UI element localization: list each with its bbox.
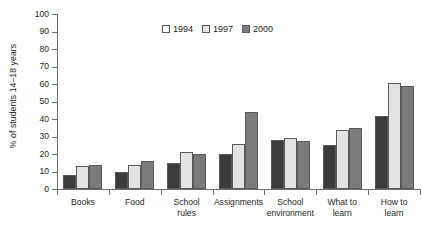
bar xyxy=(297,141,310,189)
y-axis-tick-label: 30 xyxy=(18,132,49,141)
bar-group xyxy=(167,14,206,189)
legend-label: 1994 xyxy=(173,24,193,34)
bar xyxy=(128,165,141,190)
y-axis-tick-label: 40 xyxy=(18,115,49,124)
bar xyxy=(245,112,258,189)
bar xyxy=(375,116,388,190)
y-axis-tick-label: 100 xyxy=(18,10,49,19)
legend-item-1997: 1997 xyxy=(202,24,233,34)
x-axis-tick xyxy=(161,190,162,195)
bar xyxy=(167,163,180,189)
bar xyxy=(63,175,76,189)
bar xyxy=(219,154,232,189)
x-axis-tick xyxy=(420,190,421,195)
legend-label: 2000 xyxy=(253,24,273,34)
y-axis-tick-label: 90 xyxy=(18,27,49,36)
bar-chart-figure: % of students 14–18 years 01020304050607… xyxy=(0,0,422,245)
x-axis-tick xyxy=(57,190,58,195)
x-axis-tick xyxy=(109,190,110,195)
bar-group xyxy=(115,14,154,189)
y-axis-tick-label: 20 xyxy=(18,150,49,159)
x-axis-tick xyxy=(368,190,369,195)
y-axis-tick-label: 10 xyxy=(18,167,49,176)
legend-item-1994: 1994 xyxy=(162,24,193,34)
bar xyxy=(115,172,128,190)
bar-group xyxy=(271,14,310,189)
bar xyxy=(76,166,89,189)
legend-label: 1997 xyxy=(213,24,233,34)
bar-group xyxy=(375,14,414,189)
chart-legend: 199419972000 xyxy=(162,24,273,34)
bar xyxy=(232,144,245,190)
bar xyxy=(401,86,414,189)
x-axis-line xyxy=(57,189,421,190)
bar-group xyxy=(63,14,102,189)
x-axis-tick xyxy=(316,190,317,195)
legend-item-2000: 2000 xyxy=(242,24,273,34)
bar xyxy=(141,161,154,189)
plot-area xyxy=(57,14,420,189)
category-label: How tolearn xyxy=(362,197,422,218)
legend-swatch-icon xyxy=(162,25,170,33)
bar xyxy=(193,154,206,189)
bar xyxy=(89,165,102,190)
y-axis-title-text: % of students 14–18 years xyxy=(8,44,18,148)
bar xyxy=(336,130,349,190)
y-axis-tick-label: 0 xyxy=(18,185,49,194)
x-axis-tick xyxy=(213,190,214,195)
bar xyxy=(349,128,362,189)
y-axis-tick-label: 60 xyxy=(18,80,49,89)
y-axis-tick-label: 50 xyxy=(18,97,49,106)
legend-swatch-icon xyxy=(202,25,210,33)
bar xyxy=(323,145,336,189)
x-axis-tick xyxy=(264,190,265,195)
bar xyxy=(271,140,284,189)
bar xyxy=(180,152,193,189)
y-axis-tick-label: 70 xyxy=(18,62,49,71)
bar xyxy=(388,83,401,189)
bar-group xyxy=(219,14,258,189)
legend-swatch-icon xyxy=(242,25,250,33)
y-axis-tick-label: 80 xyxy=(18,45,49,54)
bar-group xyxy=(323,14,362,189)
bar xyxy=(284,138,297,189)
